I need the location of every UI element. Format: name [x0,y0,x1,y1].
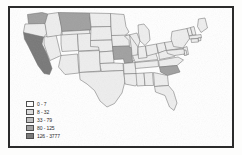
state-az [59,54,80,75]
state-sd [91,27,113,41]
state-ms [136,73,145,86]
map-legend: 0 - 78 - 3233 - 7980 - 125126 - 3777 [26,100,60,140]
state-tx [80,71,126,108]
state-nm [79,51,101,73]
legend-swatch [26,117,34,123]
state-ny [171,29,190,49]
figure-frame: 0 - 78 - 3233 - 7980 - 125126 - 3777 [8,6,234,148]
state-mt [59,13,92,32]
legend-row: 8 - 32 [26,108,60,115]
legend-swatch [26,125,34,131]
map-plot-area: 0 - 78 - 3233 - 7980 - 125126 - 3777 [10,8,232,146]
legend-label: 0 - 7 [37,101,47,107]
map-figure: 0 - 78 - 3233 - 7980 - 125126 - 3777 [0,0,242,155]
state-ar [124,63,137,75]
legend-swatch [26,133,34,139]
legend-row: 80 - 125 [26,124,60,131]
legend-row: 33 - 79 [26,116,60,123]
state-ok [100,63,124,72]
state-nd [90,13,112,27]
state-al [144,73,154,86]
state-ct [191,39,199,43]
legend-label: 8 - 32 [37,109,49,115]
state-mn [111,14,130,37]
legend-label: 126 - 3777 [37,133,60,139]
legend-label: 33 - 79 [37,117,52,123]
state-fl [155,86,178,111]
legend-row: 0 - 7 [26,100,60,107]
states-group [24,13,208,111]
legend-row: 126 - 3777 [26,132,60,139]
state-ks [100,51,115,64]
legend-label: 80 - 125 [37,125,55,131]
legend-swatch [26,101,34,107]
legend-swatch [26,109,34,115]
state-me [198,18,208,33]
state-sc [160,66,181,76]
state-ut [61,34,79,52]
